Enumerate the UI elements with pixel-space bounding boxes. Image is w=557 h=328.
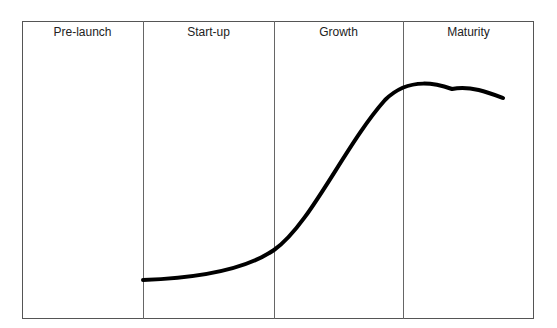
lifecycle-curve — [0, 0, 557, 328]
